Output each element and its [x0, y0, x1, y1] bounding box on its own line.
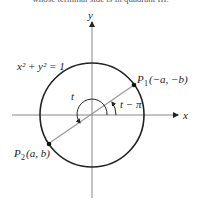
point-p2-label: P 2 (a, b): [13, 147, 50, 162]
point-p1: [132, 83, 137, 88]
svg-text:2: 2: [21, 153, 25, 162]
svg-text:(a, b): (a, b): [26, 147, 50, 160]
svg-text:(−a, −b): (−a, −b): [149, 73, 188, 86]
y-axis-label: y: [87, 9, 93, 21]
circle-equation: x² + y² = 1: [16, 60, 65, 72]
angle-t-minus-pi-arc: [112, 102, 116, 115]
svg-text:1: 1: [144, 79, 148, 88]
svg-text:P: P: [136, 73, 144, 85]
point-p2: [47, 142, 52, 147]
angle-t-label: t: [71, 90, 75, 102]
angle-t-minus-pi-label: t − π: [120, 98, 142, 110]
point-p1-label: P 1 (−a, −b): [136, 73, 188, 88]
unit-circle-diagram: x y x² + y² = 1 t t − π P 1 (−a, −b) P 2…: [0, 0, 201, 203]
svg-text:P: P: [13, 147, 21, 159]
x-axis-label: x: [182, 109, 188, 121]
